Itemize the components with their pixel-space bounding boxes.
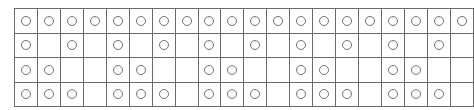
grid-cell	[221, 33, 244, 58]
grid-cell	[152, 33, 175, 58]
circle-icon	[21, 89, 31, 99]
circle-icon	[411, 16, 421, 26]
circle-icon	[434, 16, 444, 26]
grid-cell	[382, 82, 405, 107]
circle-icon	[159, 16, 169, 26]
circle-icon	[21, 16, 31, 26]
circle-icon	[136, 65, 146, 75]
grid-cell	[198, 9, 221, 34]
circle-icon	[113, 16, 123, 26]
circle-icon	[388, 65, 398, 75]
grid-cell	[404, 9, 427, 34]
circle-icon	[388, 40, 398, 50]
grid-cell	[221, 82, 244, 107]
circle-icon	[365, 16, 375, 26]
grid-cell	[152, 58, 175, 83]
grid-row	[15, 33, 474, 58]
circle-grid-table	[14, 8, 474, 107]
circle-icon	[227, 65, 237, 75]
grid-cell	[37, 58, 60, 83]
grid-cell	[359, 58, 382, 83]
circle-icon	[388, 89, 398, 99]
grid-cell	[450, 9, 473, 34]
grid-cell	[83, 33, 106, 58]
circle-icon	[250, 16, 260, 26]
circle-icon	[434, 40, 444, 50]
grid-cell	[290, 58, 313, 83]
circle-icon	[319, 89, 329, 99]
circle-icon	[21, 65, 31, 75]
grid-cell	[83, 58, 106, 83]
grid-cell	[83, 82, 106, 107]
grid-cell	[106, 33, 129, 58]
circle-icon	[296, 16, 306, 26]
grid-cell	[313, 9, 336, 34]
circle-icon	[67, 16, 77, 26]
grid-cell	[129, 9, 152, 34]
circle-icon	[136, 89, 146, 99]
grid-row	[15, 82, 474, 107]
circle-icon	[159, 89, 169, 99]
grid-cell	[175, 82, 198, 107]
circle-icon	[296, 65, 306, 75]
circle-grid-container	[14, 8, 453, 102]
circle-icon	[273, 16, 283, 26]
grid-cell	[359, 33, 382, 58]
grid-cell	[15, 82, 38, 107]
grid-cell	[427, 33, 450, 58]
grid-cell	[450, 33, 473, 58]
circle-icon	[342, 16, 352, 26]
grid-cell	[60, 82, 83, 107]
circle-icon	[159, 40, 169, 50]
grid-cell	[60, 9, 83, 34]
circle-icon	[457, 16, 467, 26]
grid-row	[15, 9, 474, 34]
grid-cell	[198, 82, 221, 107]
circle-icon	[44, 89, 54, 99]
grid-cell	[427, 9, 450, 34]
grid-cell	[336, 9, 359, 34]
grid-cell	[336, 82, 359, 107]
circle-icon	[411, 89, 421, 99]
grid-cell	[15, 58, 38, 83]
grid-cell	[313, 33, 336, 58]
grid-cell	[221, 58, 244, 83]
circle-grid-body	[15, 9, 474, 107]
grid-cell	[336, 33, 359, 58]
grid-cell	[106, 58, 129, 83]
circle-icon	[136, 16, 146, 26]
grid-cell	[290, 9, 313, 34]
circle-icon	[113, 40, 123, 50]
grid-cell	[15, 9, 38, 34]
circle-icon	[411, 65, 421, 75]
circle-icon	[90, 16, 100, 26]
grid-cell	[15, 33, 38, 58]
circle-icon	[434, 89, 444, 99]
circle-icon	[227, 16, 237, 26]
grid-cell	[267, 82, 290, 107]
grid-cell	[290, 33, 313, 58]
grid-cell	[244, 58, 267, 83]
grid-cell	[404, 82, 427, 107]
circle-icon	[250, 89, 260, 99]
grid-cell	[83, 9, 106, 34]
grid-cell	[313, 58, 336, 83]
circle-icon	[296, 40, 306, 50]
grid-cell	[267, 33, 290, 58]
grid-cell	[404, 33, 427, 58]
grid-cell	[60, 33, 83, 58]
circle-icon	[21, 40, 31, 50]
circle-icon	[67, 40, 77, 50]
grid-cell	[382, 9, 405, 34]
grid-cell	[290, 82, 313, 107]
circle-icon	[67, 89, 77, 99]
circle-icon	[342, 40, 352, 50]
grid-cell	[244, 33, 267, 58]
grid-cell	[404, 58, 427, 83]
circle-icon	[227, 89, 237, 99]
grid-cell	[267, 9, 290, 34]
grid-cell	[267, 58, 290, 83]
grid-cell	[60, 58, 83, 83]
grid-cell	[427, 58, 450, 83]
grid-cell	[198, 58, 221, 83]
